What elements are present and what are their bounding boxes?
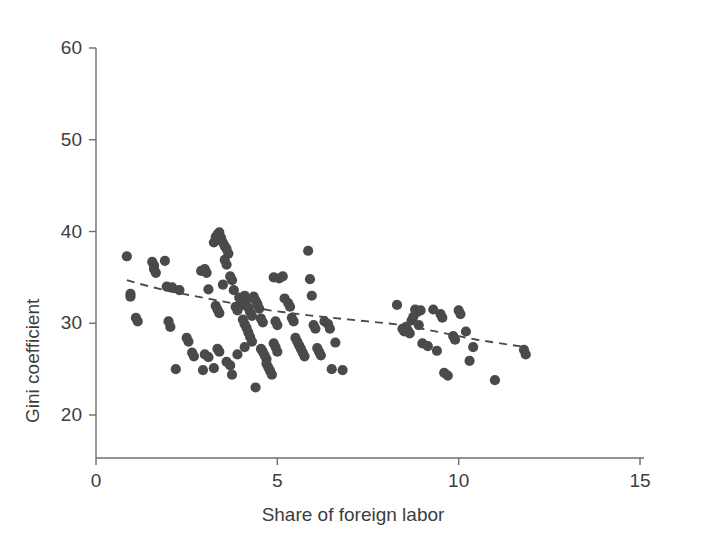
scatter-point bbox=[203, 352, 213, 362]
scatter-point bbox=[414, 320, 424, 330]
scatter-point bbox=[221, 259, 231, 269]
scatter-point bbox=[423, 341, 433, 351]
scatter-point bbox=[267, 370, 277, 380]
scatter-point bbox=[392, 300, 402, 310]
y-axis-tick-label: 60 bbox=[36, 37, 82, 59]
scatter-point bbox=[464, 356, 474, 366]
scatter-point bbox=[316, 350, 326, 360]
scatter-point bbox=[151, 268, 161, 278]
scatter-point bbox=[209, 363, 219, 373]
x-axis-title: Share of foreign labor bbox=[262, 504, 445, 526]
scatter-point bbox=[490, 375, 500, 385]
scatter-point bbox=[285, 302, 295, 312]
scatter-point bbox=[214, 347, 224, 357]
scatter-point bbox=[223, 248, 233, 258]
scatter-point bbox=[461, 326, 471, 336]
scatter-point bbox=[272, 347, 282, 357]
scatter-point bbox=[133, 316, 143, 326]
scatter-point bbox=[310, 324, 320, 334]
scatter-point bbox=[250, 382, 260, 392]
scatter-point bbox=[174, 285, 184, 295]
scatter-point bbox=[415, 305, 425, 315]
axes bbox=[89, 48, 644, 465]
y-axis-title: Gini coefficient bbox=[22, 299, 44, 423]
scatter-point bbox=[325, 324, 335, 334]
scatter-point bbox=[203, 284, 213, 294]
scatter-point bbox=[125, 292, 135, 302]
data-points bbox=[122, 227, 531, 392]
x-axis-tick-label: 15 bbox=[629, 470, 650, 492]
scatter-point bbox=[183, 337, 193, 347]
scatter-point bbox=[521, 349, 531, 359]
scatter-point bbox=[198, 365, 208, 375]
scatter-point bbox=[232, 349, 242, 359]
scatter-point bbox=[432, 346, 442, 356]
scatter-point bbox=[405, 328, 415, 338]
y-axis-tick-label: 40 bbox=[36, 221, 82, 243]
scatter-point bbox=[305, 274, 315, 284]
scatter-point bbox=[122, 251, 132, 261]
scatter-point bbox=[272, 320, 282, 330]
scatter-point bbox=[214, 308, 224, 318]
scatter-point bbox=[254, 303, 264, 313]
scatter-point bbox=[437, 313, 447, 323]
scatter-point bbox=[330, 337, 340, 347]
scatter-point bbox=[299, 351, 309, 361]
scatter-point bbox=[225, 360, 235, 370]
scatter-point bbox=[227, 370, 237, 380]
scatter-point bbox=[240, 342, 250, 352]
x-axis-tick-label: 0 bbox=[91, 470, 102, 492]
x-axis-tick-label: 5 bbox=[272, 470, 283, 492]
scatter-point bbox=[338, 365, 348, 375]
scatter-point bbox=[189, 351, 199, 361]
scatter-point bbox=[443, 370, 453, 380]
scatter-point bbox=[171, 364, 181, 374]
scatter-point bbox=[289, 316, 299, 326]
chart-figure: 2030405060 051015 Share of foreign labor… bbox=[0, 0, 706, 545]
scatter-point bbox=[160, 256, 170, 266]
scatter-point bbox=[468, 342, 478, 352]
scatter-point bbox=[202, 268, 212, 278]
scatter-point bbox=[450, 335, 460, 345]
scatter-point bbox=[247, 311, 257, 321]
scatter-point bbox=[455, 309, 465, 319]
scatter-point bbox=[227, 275, 237, 285]
y-axis-tick-label: 50 bbox=[36, 129, 82, 151]
x-axis-tick-label: 10 bbox=[448, 470, 469, 492]
scatter-point bbox=[218, 280, 228, 290]
scatter-point bbox=[165, 322, 175, 332]
scatter-point bbox=[307, 291, 317, 301]
scatter-point bbox=[303, 246, 313, 256]
scatter-point bbox=[258, 317, 268, 327]
scatter-point bbox=[327, 364, 337, 374]
scatter-plot-canvas bbox=[0, 0, 706, 545]
scatter-point bbox=[278, 271, 288, 281]
